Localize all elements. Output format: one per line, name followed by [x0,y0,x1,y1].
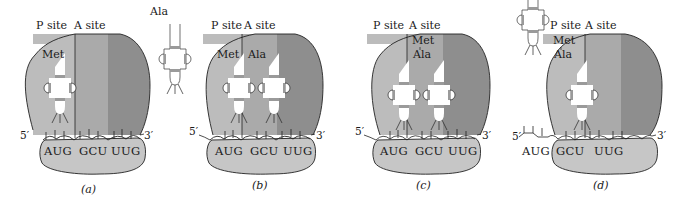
five-prime-label: 5′ [189,125,199,137]
panel-a: Met Ala P site A site AUG GCU UUG 5′ 3′ … [20,5,191,196]
label-p-site: P site [550,19,581,32]
caption-c: (c) [416,179,431,192]
label-a-site: A site [408,19,441,32]
codon-3: UUG [111,144,140,158]
three-prime-label: 3′ [657,129,667,141]
label-met: Met [412,34,435,47]
codon-1: AUG [43,144,72,158]
codon-1: AUG [214,144,243,158]
codon-1: AUG [521,144,550,158]
ribosome-elongation-figure: Met Ala P site A site AUG GCU UUG 5′ 3′ … [0,0,690,211]
label-ala: Ala [247,48,266,61]
label-a-site: A site [73,19,106,32]
codon-1: AUG [379,144,408,158]
label-ala: Ala [412,48,431,61]
label-met: Met [42,48,65,61]
label-met: Met [553,34,576,47]
caption-b: (b) [252,179,268,192]
panel-b: Met Ala P site A site AUG GCU UUG 5′ 3′ … [189,19,327,192]
label-a-site: A site [243,19,276,32]
five-prime-label: 5′ [20,129,30,141]
codon-2: GCU [250,144,279,158]
caption-a: (a) [81,183,96,196]
label-p-site: P site [36,19,67,32]
five-prime-label: 5′ [512,130,522,142]
label-a-site: A site [584,19,617,32]
label-p-site: P site [373,19,404,32]
caption-d: (d) [593,179,609,192]
label-ala-incoming: Ala [149,5,168,18]
codon-3: UUG [283,144,312,158]
panel-c: Met Ala P site A site AUG GCU UUG 5′ 3′ … [355,19,493,192]
codon-3: UUG [594,144,623,158]
codon-2: GCU [79,144,108,158]
codon-3: UUG [448,144,477,158]
codon-2: GCU [556,144,585,158]
panel-d: Met Ala P site A site AUG GCU UUG 5′ 3′ … [512,0,667,192]
label-ala: Ala [553,48,572,61]
codon-2: GCU [415,144,444,158]
three-prime-label: 3′ [316,129,326,141]
five-prime-label: 5′ [355,125,365,137]
three-prime-label: 3′ [144,129,154,141]
label-met: Met [217,48,240,61]
three-prime-label: 3′ [482,129,492,141]
label-p-site: P site [211,19,242,32]
